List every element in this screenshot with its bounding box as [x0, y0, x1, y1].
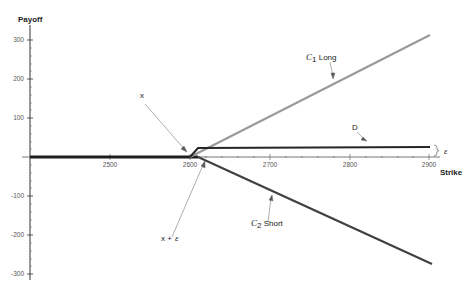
series-c2-short	[198, 157, 432, 264]
x-axis-title: Strike	[440, 168, 463, 177]
y-tick-label: -100	[11, 192, 24, 199]
payoff-chart: 300 200 100 -100 -200 -300 2500 2600 270…	[0, 0, 474, 290]
x-label: x	[140, 91, 144, 100]
c2-short-label: C2 Short	[251, 218, 284, 230]
y-tick-label: 300	[13, 36, 24, 43]
x-tick-label: 2900	[422, 161, 437, 168]
y-tick-label: 200	[13, 75, 24, 82]
series-d	[190, 147, 430, 157]
y-tick-label: 100	[13, 114, 24, 121]
x-tick-label: 2700	[263, 161, 278, 168]
y-axis-title: Payoff	[18, 15, 43, 24]
epsilon-label: ε	[444, 146, 448, 156]
x-tick-label: 2800	[343, 161, 358, 168]
c1-long-label: C1 Long	[306, 52, 337, 64]
x-tick-label: 2600	[183, 161, 198, 168]
annotation-arrows	[145, 62, 367, 237]
epsilon-brace	[434, 145, 439, 156]
y-tick-label: -300	[11, 270, 24, 277]
x-plus-epsilon-label: x +ε	[161, 233, 179, 243]
y-tick-label: -200	[11, 231, 24, 238]
x-tick-label: 2500	[103, 161, 118, 168]
d-label: D	[352, 123, 358, 132]
